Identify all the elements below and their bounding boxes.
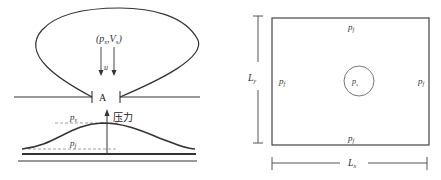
orifice-circle	[344, 66, 374, 96]
source-state-label: (ps,Vs)	[96, 33, 122, 46]
flow-velocity-label: u	[104, 63, 108, 72]
gas-chamber-diagram: (ps,Vs) u A 压力 ps pf	[14, 8, 200, 161]
bottom-boundary-pressure: pf	[347, 133, 356, 144]
orifice-label: A	[99, 92, 107, 103]
diagram-canvas: (ps,Vs) u A 压力 ps pf pf pf pf pf ps	[0, 0, 441, 180]
ambient-pressure-label: pf	[69, 138, 78, 149]
center-pressure: ps	[351, 77, 358, 87]
pressure-axis-label: 压力	[113, 111, 133, 123]
peak-pressure-label: ps	[69, 112, 78, 123]
pad-boundary	[272, 18, 429, 145]
height-dimension-label: Ly	[247, 72, 257, 84]
pressure-distribution-curve	[22, 123, 195, 149]
right-boundary-pressure: pf	[417, 76, 426, 87]
left-boundary-pressure: pf	[278, 76, 287, 87]
pad-plan-diagram: pf pf pf pf ps Ly Lx	[247, 16, 429, 170]
width-dimension-label: Lx	[347, 157, 357, 169]
top-boundary-pressure: pf	[347, 22, 356, 33]
gas-chamber-outline	[36, 8, 199, 97]
